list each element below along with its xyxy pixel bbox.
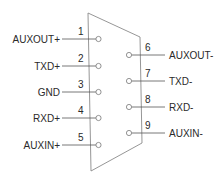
pin-number: 6 — [145, 42, 151, 53]
pin-number: 3 — [78, 79, 84, 90]
pin-label: RXD+ — [33, 113, 60, 124]
pin-label: TXD+ — [34, 61, 60, 72]
pin-number: 7 — [145, 68, 151, 79]
pin-number: 5 — [78, 132, 84, 143]
pin-7: 7 TXD- — [126, 68, 192, 87]
pin-6: 6 AUXOUT- — [126, 42, 213, 61]
pin-1: 1 AUXOUT+ — [12, 26, 101, 45]
pin-2: 2 TXD+ — [34, 53, 101, 72]
pin-label: RXD- — [169, 102, 193, 113]
pin-5: 5 AUXIN+ — [24, 132, 102, 151]
pin-label: GND — [38, 87, 60, 98]
db9-pinout-diagram: 1 AUXOUT+ 2 TXD+ 3 GND 4 RXD+ 5 AUXIN+ 6… — [0, 0, 223, 186]
pin-8: 8 RXD- — [126, 94, 193, 113]
pin-label: AUXOUT+ — [12, 34, 60, 45]
pin-label: TXD- — [169, 76, 192, 87]
pin-9: 9 AUXIN- — [126, 120, 203, 139]
pin-label: AUXIN- — [169, 128, 203, 139]
pin-3: 3 GND — [38, 79, 101, 98]
pin-number: 9 — [145, 120, 151, 131]
pin-number: 2 — [78, 53, 84, 64]
pin-label: AUXOUT- — [169, 50, 213, 61]
pin-number: 8 — [145, 94, 151, 105]
pin-4: 4 RXD+ — [33, 105, 101, 124]
pin-label: AUXIN+ — [24, 140, 61, 151]
pin-number: 4 — [78, 105, 84, 116]
pin-number: 1 — [78, 26, 84, 37]
